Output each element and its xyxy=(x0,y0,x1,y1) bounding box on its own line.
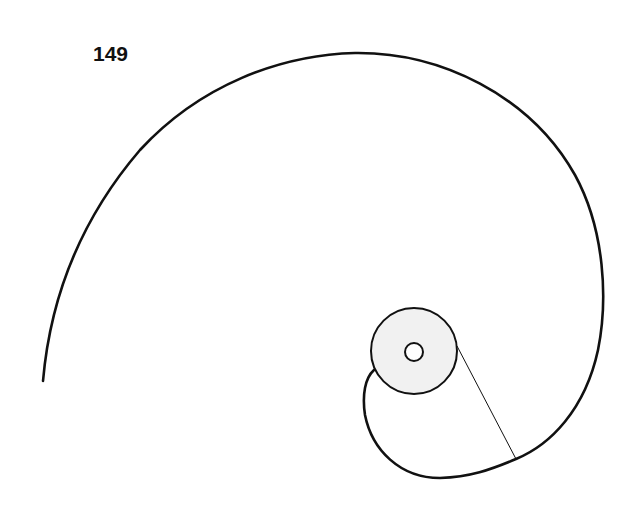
spiral-curve xyxy=(43,53,603,478)
center-hole xyxy=(405,343,423,361)
tangent-line xyxy=(457,346,516,459)
spiral-diagram xyxy=(0,0,635,511)
